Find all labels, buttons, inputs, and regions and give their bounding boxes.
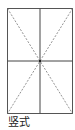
rice-grid-diagram <box>0 0 75 130</box>
orientation-label: 竖式 <box>8 116 30 129</box>
center-point <box>39 60 41 62</box>
